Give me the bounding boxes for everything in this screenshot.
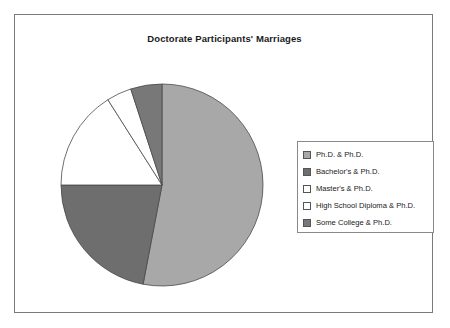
legend-item-label: Bachelor's & Ph.D. [316,167,380,177]
pie-svg [60,83,264,287]
chart-frame: Doctorate Participants' Marriages Ph.D. … [14,14,433,313]
legend-item[interactable]: Master's & Ph.D. [303,181,429,197]
legend-swatch-masters-phd [303,185,311,193]
legend-item[interactable]: Some College & Ph.D. [303,215,429,231]
legend-item[interactable]: Bachelor's & Ph.D. [303,164,429,180]
legend-item[interactable]: High School Diploma & Ph.D. [303,198,429,214]
legend-item-label: Master's & Ph.D. [316,184,373,194]
legend-swatch-bachelors-phd [303,168,311,176]
legend-swatch-phd-phd [303,151,311,159]
legend-item-label: Ph.D. & Ph.D. [316,150,363,160]
pie-chart [60,83,264,287]
legend-item-label: High School Diploma & Ph.D. [316,201,415,211]
chart-title: Doctorate Participants' Marriages [15,33,434,44]
legend-item-label: Some College & Ph.D. [316,218,392,228]
legend-swatch-somecollege-phd [303,219,311,227]
chart-legend: Ph.D. & Ph.D.Bachelor's & Ph.D.Master's … [297,141,434,233]
chart-root: Doctorate Participants' Marriages Ph.D. … [0,0,450,328]
legend-item[interactable]: Ph.D. & Ph.D. [303,147,429,163]
legend-swatch-highschool-phd [303,202,311,210]
